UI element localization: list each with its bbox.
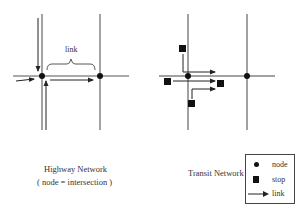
transit-stop-left	[164, 78, 171, 85]
highway-network-title: Highway Network	[44, 164, 107, 174]
transit-arrow-bottom	[192, 89, 215, 99]
legend-label-stop: stop	[272, 174, 285, 186]
legend-label-node: node	[272, 159, 288, 171]
highway-arrow-right-in	[16, 79, 34, 81]
legend-item-node: node	[246, 159, 294, 173]
link-label: link	[65, 45, 77, 54]
legend-item-stop: stop	[246, 174, 294, 188]
legend: node stop link	[245, 154, 295, 204]
highway-network	[13, 14, 129, 130]
legend-label-link: link	[272, 188, 284, 200]
transit-node-left	[185, 73, 191, 79]
transit-network-title: Transit Network	[188, 168, 244, 178]
highway-node-right	[97, 73, 103, 79]
transit-stop-top	[179, 45, 186, 52]
link-arrow-icon	[248, 189, 270, 199]
legend-item-link: link	[246, 188, 294, 202]
transit-stop-right	[217, 80, 224, 87]
highway-network-subtitle: ( node = intersection )	[37, 177, 112, 187]
link-brace	[47, 59, 95, 70]
transit-stop-bottom	[188, 100, 195, 107]
highway-node-left	[39, 73, 45, 79]
transit-node-right	[244, 73, 250, 79]
stop-square-icon	[253, 176, 259, 183]
node-circle-icon	[254, 162, 259, 167]
transit-network	[159, 14, 275, 130]
